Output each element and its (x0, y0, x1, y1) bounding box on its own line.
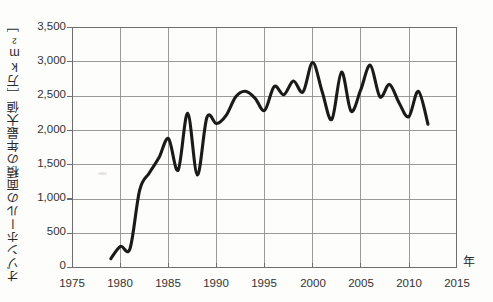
axis-ticks (67, 28, 409, 268)
plot-area (0, 0, 493, 302)
grid-lines (72, 28, 457, 268)
ozone-hole-area-chart: オゾンホールの面積の年最大値［万km²］ 3,500 3,000 2,500 2… (0, 0, 493, 302)
data-series-line (111, 62, 428, 258)
